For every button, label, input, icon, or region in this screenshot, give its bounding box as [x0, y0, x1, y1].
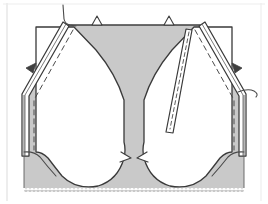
pinked-hem-edge — [24, 186, 244, 192]
pattern-illustration — [0, 0, 268, 204]
diagram-canvas: Sewing pattern construction diagram Symm… — [0, 0, 268, 204]
